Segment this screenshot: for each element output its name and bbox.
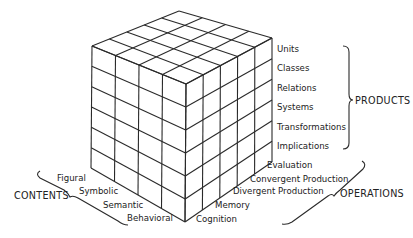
operations-labels: Evaluation Convergent Production Diverge… (196, 160, 348, 224)
product-label: Implications (277, 141, 330, 151)
content-label: Symbolic (79, 186, 118, 196)
operation-label: Divergent Production (233, 186, 324, 196)
products-labels: Units Classes Relations Systems Transfor… (276, 44, 346, 151)
content-label: Behavioral (127, 213, 173, 223)
operation-label: Cognition (196, 214, 237, 224)
products-caption: PRODUCTS (355, 95, 410, 106)
structure-of-intellect-diagram: Units Classes Relations Systems Transfor… (0, 0, 413, 238)
contents-caption: CONTENTS (14, 190, 69, 201)
products-brace-icon (343, 46, 353, 149)
content-label: Figural (57, 173, 86, 183)
operation-label: Convergent Production (250, 174, 348, 184)
product-label: Transformations (276, 122, 346, 132)
product-label: Systems (277, 102, 314, 112)
product-label: Relations (277, 83, 317, 93)
content-label: Semantic (103, 200, 144, 210)
operation-label: Memory (215, 200, 250, 210)
operation-label: Evaluation (267, 160, 312, 170)
operations-caption: OPERATIONS (340, 188, 404, 199)
product-label: Classes (277, 63, 310, 73)
product-label: Units (277, 44, 299, 54)
